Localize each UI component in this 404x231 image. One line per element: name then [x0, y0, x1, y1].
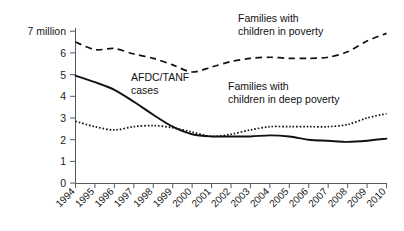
- y-tick-label-2: 2: [60, 134, 66, 146]
- x-tick-label-2004: 2004: [248, 185, 272, 209]
- annotation-families-in-poverty: Families with children in poverty: [238, 12, 324, 37]
- annotation-deep-line1: Families with: [228, 80, 289, 92]
- x-tick-label-2003: 2003: [228, 185, 252, 209]
- x-tick-label-1998: 1998: [131, 185, 155, 209]
- annotation-afdc-tanf-cases: AFDC/TANF cases: [131, 71, 189, 96]
- x-tick-label-2009: 2009: [345, 185, 369, 209]
- annotation-deep-line2: children in deep poverty: [228, 93, 340, 105]
- series-line-families-in-poverty: [76, 33, 387, 72]
- y-tick-label-4: 4: [60, 90, 66, 102]
- x-tick-label-1997: 1997: [112, 185, 136, 209]
- series-line-families-in-deep-poverty: [76, 114, 387, 137]
- annotation-families-in-deep-poverty: Families with children in deep poverty: [228, 80, 340, 105]
- x-tick-label-2002: 2002: [209, 185, 233, 209]
- y-tick-label-3: 3: [60, 112, 66, 124]
- x-tick-label-2010: 2010: [364, 185, 388, 209]
- y-tick-label-5: 5: [60, 69, 66, 81]
- x-tick-label-2007: 2007: [306, 185, 330, 209]
- x-tick-label-1999: 1999: [151, 185, 175, 209]
- y-tick-label-0: 0: [60, 177, 66, 189]
- x-tick-label-2008: 2008: [326, 185, 350, 209]
- annotation-poverty-line1: Families with: [238, 12, 299, 24]
- x-axis-tick-labels: 1994199519961997199819992000200120022003…: [53, 185, 388, 209]
- x-tick-label-2000: 2000: [170, 185, 194, 209]
- y-tick-label-6: 6: [60, 47, 66, 59]
- annotation-poverty-line2: children in poverty: [238, 25, 324, 37]
- x-tick-label-1994: 1994: [53, 185, 77, 209]
- x-tick-label-2001: 2001: [189, 185, 213, 209]
- x-tick-label-2005: 2005: [267, 185, 291, 209]
- x-tick-label-1995: 1995: [73, 185, 97, 209]
- x-tick-label-1996: 1996: [92, 185, 116, 209]
- y-tick-label-7: 7 million: [27, 25, 66, 37]
- y-tick-label-1: 1: [60, 155, 66, 167]
- y-axis-ticks: [70, 31, 76, 183]
- line-chart: 7 million 6 5 4 3 2 1 0 1994199519961997…: [0, 0, 404, 231]
- annotation-afdc-line2: cases: [131, 84, 158, 96]
- x-tick-label-2006: 2006: [287, 185, 311, 209]
- annotation-afdc-line1: AFDC/TANF: [131, 71, 189, 83]
- chart-container: 7 million 6 5 4 3 2 1 0 1994199519961997…: [0, 0, 404, 231]
